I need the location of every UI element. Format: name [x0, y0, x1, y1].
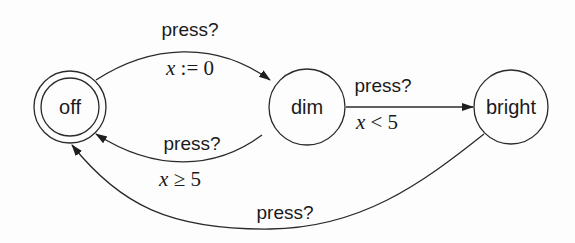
action-label-dim-to-bright: press?	[354, 75, 411, 96]
guard-label-dim-to-off: x ≥ 5	[158, 167, 201, 191]
state-bright-label: bright	[486, 96, 536, 118]
action-label-off-to-dim: press?	[161, 19, 218, 40]
transition-off-to-dim: press? x := 0	[96, 19, 270, 80]
guard-label-off-to-dim: x := 0	[165, 56, 214, 80]
transition-dim-to-off: press? x ≥ 5	[96, 133, 262, 191]
automaton-diagram: off dim bright press? x := 0 press? x < …	[0, 0, 575, 243]
state-dim: dim	[269, 69, 345, 145]
state-off-label: off	[59, 96, 81, 118]
state-dim-label: dim	[291, 96, 323, 118]
state-bright: bright	[474, 70, 548, 144]
state-off: off	[34, 71, 106, 143]
action-label-dim-to-off: press?	[163, 133, 220, 154]
transition-dim-to-bright: press? x < 5	[346, 75, 473, 134]
guard-label-dim-to-bright: x < 5	[355, 110, 398, 134]
transition-bright-to-off: press?	[72, 134, 484, 229]
diagram-canvas: off dim bright press? x := 0 press? x < …	[0, 0, 575, 243]
action-label-bright-to-off: press?	[256, 202, 313, 223]
